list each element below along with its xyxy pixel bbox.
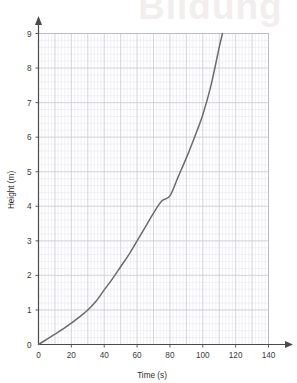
- height-vs-time-line-chart: 020406080100120140 0123456789 Time (s) H…: [0, 0, 297, 383]
- chart-container: Bildung 020406080100120140 0123456789 Ti…: [0, 0, 297, 383]
- y-axis-tick-labels: 0123456789: [27, 30, 32, 350]
- x-tick-label: 120: [229, 351, 243, 360]
- x-axis-title: Time (s): [137, 371, 167, 380]
- x-tick-label: 20: [67, 351, 77, 360]
- x-axis-tick-labels: 020406080100120140: [36, 351, 276, 360]
- x-tick-label: 40: [100, 351, 110, 360]
- x-tick-label: 100: [196, 351, 210, 360]
- y-tick-label: 7: [27, 99, 32, 108]
- y-tick-label: 1: [27, 306, 32, 315]
- y-tick-label: 8: [27, 64, 32, 73]
- y-tick-label: 3: [27, 237, 32, 246]
- x-tick-label: 60: [133, 351, 143, 360]
- y-tick-label: 0: [27, 341, 32, 350]
- y-tick-label: 4: [27, 202, 32, 211]
- y-tick-label: 9: [27, 30, 32, 39]
- y-tick-label: 6: [27, 133, 32, 142]
- x-tick-label: 140: [262, 351, 276, 360]
- major-gridlines: [39, 34, 269, 345]
- y-tick-label: 2: [27, 271, 32, 280]
- y-axis-title: Height (m): [7, 171, 16, 209]
- x-tick-label: 0: [36, 351, 41, 360]
- axis-lines: [35, 16, 293, 348]
- y-tick-label: 5: [27, 168, 32, 177]
- axis-tick-marks: [36, 34, 269, 348]
- x-tick-label: 80: [165, 351, 175, 360]
